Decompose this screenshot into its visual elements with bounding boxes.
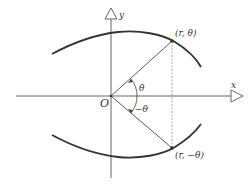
point-lower-label: (r, −θ) bbox=[175, 150, 205, 160]
origin-point bbox=[110, 95, 112, 97]
point-upper-label: (r, θ) bbox=[175, 28, 197, 38]
point-lower bbox=[170, 146, 174, 150]
polar-symmetry-diagram: x y θ −θ O (r, θ) (r, −θ) bbox=[0, 0, 252, 185]
x-axis-label: x bbox=[231, 80, 236, 90]
x-axis-arrow-icon bbox=[231, 90, 243, 102]
y-axis-label: y bbox=[118, 10, 125, 20]
origin-label: O bbox=[100, 97, 109, 110]
angle-label-neg-theta: −θ bbox=[135, 104, 149, 114]
angle-label-theta: θ bbox=[139, 83, 145, 93]
y-axis-arrow-icon bbox=[105, 8, 117, 19]
point-upper bbox=[170, 39, 174, 43]
